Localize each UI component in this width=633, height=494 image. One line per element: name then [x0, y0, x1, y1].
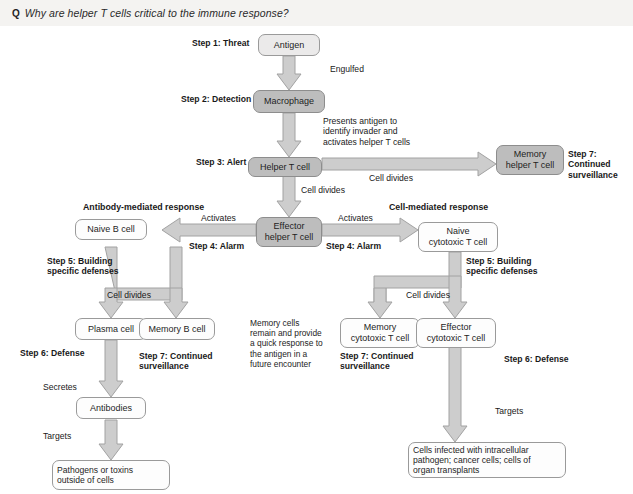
node-infected-cells[interactable]: Cells infected with intracellular pathog… — [408, 442, 566, 478]
node-antigen[interactable]: Antigen — [258, 34, 320, 56]
node-macrophage[interactable]: Macrophage — [253, 90, 325, 113]
label-step-7-memory-b: Step 7: Continued surveillance — [139, 351, 213, 372]
node-naive-b-cell[interactable]: Naive B cell — [75, 219, 147, 240]
node-effector-cytotoxic-t-cell[interactable]: Effector cytotoxic T cell — [416, 318, 496, 348]
node-plasma-cell[interactable]: Plasma cell — [75, 318, 147, 340]
label-secretes: Secretes — [43, 382, 77, 392]
label-step-5-left: Step 5: Building specific defenses — [47, 256, 119, 277]
node-pathogens-outside-cells[interactable]: Pathogens or toxins outside of cells — [52, 460, 170, 490]
label-step-1: Step 1: Threat — [192, 38, 249, 48]
arrow-plasma-cell-to-antibodies — [99, 340, 123, 397]
label-step-6-left: Step 6: Defense — [20, 348, 84, 358]
label-step-6-right: Step 6: Defense — [504, 354, 568, 364]
label-step-7-memory-helper-t: Step 7: Continued surveillance — [568, 149, 633, 180]
annotation-memory-cells: Memory cells remain and provide a quick … — [250, 318, 342, 369]
question-text: Why are helper T cells critical to the i… — [25, 7, 289, 19]
label-activates-left: Activates — [201, 213, 236, 223]
question-bar: Q Why are helper T cells critical to the… — [0, 0, 633, 27]
node-helper-t-cell[interactable]: Helper T cell — [248, 157, 322, 177]
label-step-4-right: Step 4: Alarm — [326, 241, 381, 251]
label-targets-right: Targets — [495, 406, 523, 416]
label-step-2: Step 2: Detection — [181, 94, 251, 104]
label-step-4-left: Step 4: Alarm — [189, 241, 244, 251]
node-naive-cytotoxic-t-cell[interactable]: Naive cytotoxic T cell — [418, 222, 498, 252]
arrow-effector-cytotoxic-t-to-infected-cells — [443, 346, 467, 442]
label-cell-divides-t: Cell divides — [406, 290, 450, 300]
node-effector-helper-t-cell[interactable]: Effector helper T cell — [256, 217, 322, 247]
label-step-3: Step 3: Alert — [196, 157, 246, 167]
node-memory-cytotoxic-t-cell[interactable]: Memory cytotoxic T cell — [340, 318, 420, 348]
arrow-antibodies-to-pathogens — [99, 420, 123, 460]
immune-response-diagram: .shaft{fill:#cdcdcd;stroke:#a2a2a2;strok… — [0, 26, 633, 494]
label-step-5-right: Step 5: Building specific defenses — [466, 256, 538, 277]
label-targets-left: Targets — [43, 431, 71, 441]
label-presents-antigen: Presents antigen to identify invader and… — [323, 116, 410, 147]
question-marker: Q — [12, 8, 20, 19]
node-memory-helper-t-cell[interactable]: Memory helper T cell — [496, 145, 564, 175]
label-cell-divides-effector: Cell divides — [301, 185, 345, 195]
label-cell-divides-memory-helper: Cell divides — [369, 173, 413, 183]
label-activates-right: Activates — [338, 213, 373, 223]
header-cell-mediated-response: Cell-mediated response — [389, 202, 488, 212]
arrow-naive-cytotoxic-t-to-memory-cytotoxic-t — [368, 288, 392, 318]
header-antibody-mediated-response: Antibody-mediated response — [83, 202, 204, 212]
label-cell-divides-b: Cell divides — [107, 290, 151, 300]
arrow-helper-t-to-effector-helper-t — [277, 176, 301, 217]
label-step-7-memory-cytotoxic: Step 7: Continued surveillance — [340, 351, 414, 372]
arrow-macrophage-to-helper-t — [277, 113, 301, 157]
arrow-antigen-to-macrophage — [277, 56, 301, 90]
label-engulfed: Engulfed — [330, 64, 364, 74]
node-antibodies[interactable]: Antibodies — [76, 397, 146, 419]
node-memory-b-cell[interactable]: Memory B cell — [139, 318, 215, 340]
